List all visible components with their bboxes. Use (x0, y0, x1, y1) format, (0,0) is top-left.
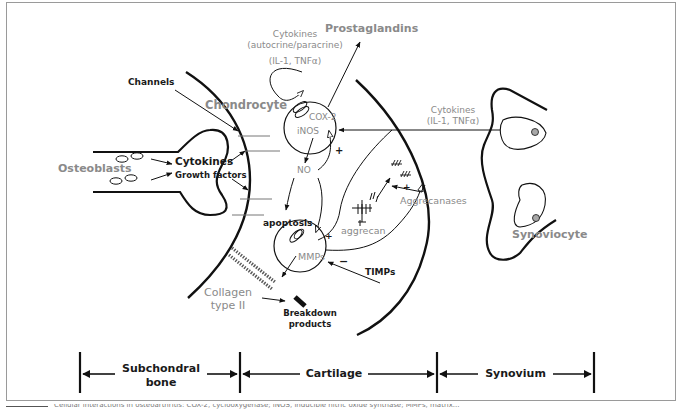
plus-sign-no-cox: + (335, 146, 343, 156)
breakdown-product-block (295, 297, 305, 306)
label-cytokines-bone: Cytokines (175, 156, 233, 167)
label-aggrecanases: Aggrecanases (400, 196, 467, 206)
region-label-synovium: Synovium (478, 368, 553, 379)
label-autocrine-paracrine: (autocrine/paracrine) (240, 41, 350, 50)
label-apoptosis: apoptosis (263, 219, 312, 228)
label-products: products (280, 320, 340, 329)
region-label-bone: bone (115, 377, 207, 388)
caption-text: Cellular interactions in osteoarthritis:… (54, 404, 460, 409)
aggrecan-structure (352, 192, 378, 226)
caption-rule (6, 406, 48, 407)
collagen-helix (229, 248, 275, 289)
label-type-ii: type II (198, 300, 258, 311)
minus-sign-timps: − (339, 256, 348, 267)
label-collagen: Collagen (198, 287, 258, 298)
label-cox2: COX-2 (309, 113, 336, 122)
mmp-cell-organelle (288, 228, 305, 244)
label-inos: iNOS (297, 127, 319, 136)
label-chondrocyte: Chondrocyte (205, 100, 287, 112)
plus-sign-mmp: + (325, 232, 333, 241)
label-timps: TIMPs (365, 268, 395, 277)
label-aggrecan: aggrecan (341, 226, 386, 236)
label-mmps: MMPs (298, 252, 325, 262)
region-label-subchondral: Subchondral (115, 363, 207, 374)
label-prostaglandins: Prostaglandins (325, 23, 418, 34)
plus-sign-aggrecanases: + (403, 183, 411, 192)
label-cytokines-synovium: Cytokines (413, 106, 493, 115)
label-channels: Channels (128, 78, 174, 87)
label-osteoblasts: Osteoblasts (58, 163, 132, 174)
figure-caption: Cellular interactions in osteoarthritis:… (0, 404, 681, 410)
synoviocite-lower (514, 184, 545, 227)
label-breakdown: Breakdown (280, 309, 340, 318)
label-synoviocyte: Synoviocyte (512, 229, 587, 240)
label-il1-tnf-right: (IL-1, TNFα) (413, 117, 493, 126)
synoviocyte-upper (500, 117, 546, 149)
region-label-cartilage: Cartilage (300, 368, 368, 379)
label-no: NO (297, 166, 311, 175)
label-growth-factors: Growth factors (175, 171, 247, 180)
label-il1-tnf-top: (IL-1, TNFα) (240, 57, 350, 66)
